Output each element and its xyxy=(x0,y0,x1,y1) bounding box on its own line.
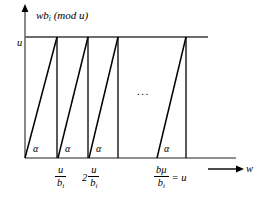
sawtooth-ramp-3 xyxy=(89,37,118,158)
y-axis-label-main: wb xyxy=(36,9,49,21)
angle-label-alpha-3: α xyxy=(96,144,101,154)
x-tick-3-denominator: bi xyxy=(154,177,169,190)
x-tick-1-denominator-subscript: i xyxy=(62,182,64,190)
sawtooth-chart-svg xyxy=(0,0,259,203)
x-tick-3-denominator-subscript: i xyxy=(163,182,165,190)
x-tick-2u-over-bi: 2 u bi xyxy=(82,164,102,190)
sawtooth-ramp-4 xyxy=(157,37,186,158)
x-tick-bmu-over-bi: bμ bi = u xyxy=(153,164,187,190)
sawtooth-ramp-2 xyxy=(58,37,88,158)
x-axis-label: w xyxy=(246,164,253,175)
figure-container: wbi (mod u) u w α α α α ... u bi 2 u bi … xyxy=(0,0,259,203)
x-tick-2-lead: 2 xyxy=(82,172,87,183)
x-tick-3-tail: = u xyxy=(172,172,187,183)
x-tick-1-denominator: bi xyxy=(55,177,66,190)
x-tick-2-numerator: u xyxy=(88,164,99,175)
x-tick-2-fraction: u bi xyxy=(88,164,99,190)
ellipsis-label: ... xyxy=(137,86,150,97)
y-axis-arrow-icon xyxy=(22,4,29,12)
x-tick-u-over-bi: u bi xyxy=(54,164,69,190)
x-axis-arrow-icon xyxy=(236,166,244,173)
y-axis-label-mod: (mod u) xyxy=(51,9,88,21)
y-axis-label: wbi (mod u) xyxy=(36,10,88,23)
angle-label-alpha-4: α xyxy=(164,144,169,154)
x-tick-2-denominator: bi xyxy=(88,177,99,190)
angle-label-alpha-2: α xyxy=(65,144,70,154)
x-tick-3-numerator: bμ xyxy=(154,164,169,175)
x-tick-1-fraction: u bi xyxy=(55,164,66,190)
sawtooth-ramp-1 xyxy=(25,37,57,158)
angle-label-alpha-1: α xyxy=(33,144,38,154)
x-tick-2-denominator-subscript: i xyxy=(96,182,98,190)
x-tick-3-fraction: bμ bi xyxy=(154,164,169,190)
y-tick-label-u: u xyxy=(17,38,22,49)
x-tick-1-numerator: u xyxy=(55,164,66,175)
